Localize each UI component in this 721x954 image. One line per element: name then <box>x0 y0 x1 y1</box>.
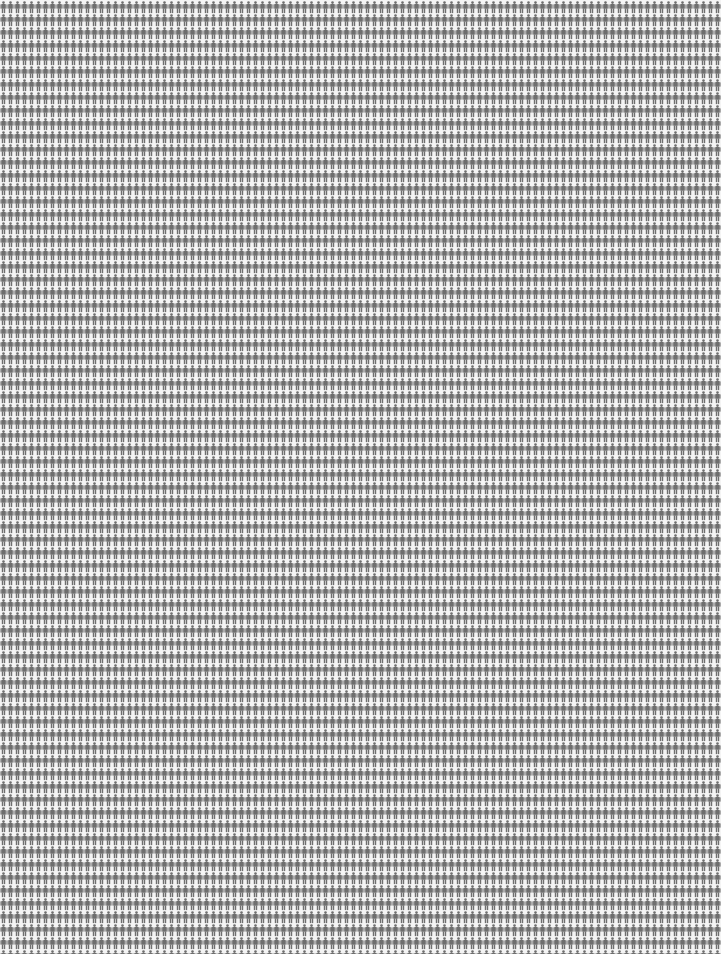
isotype-chart <box>0 0 721 954</box>
person-icon-grid <box>0 1 721 954</box>
